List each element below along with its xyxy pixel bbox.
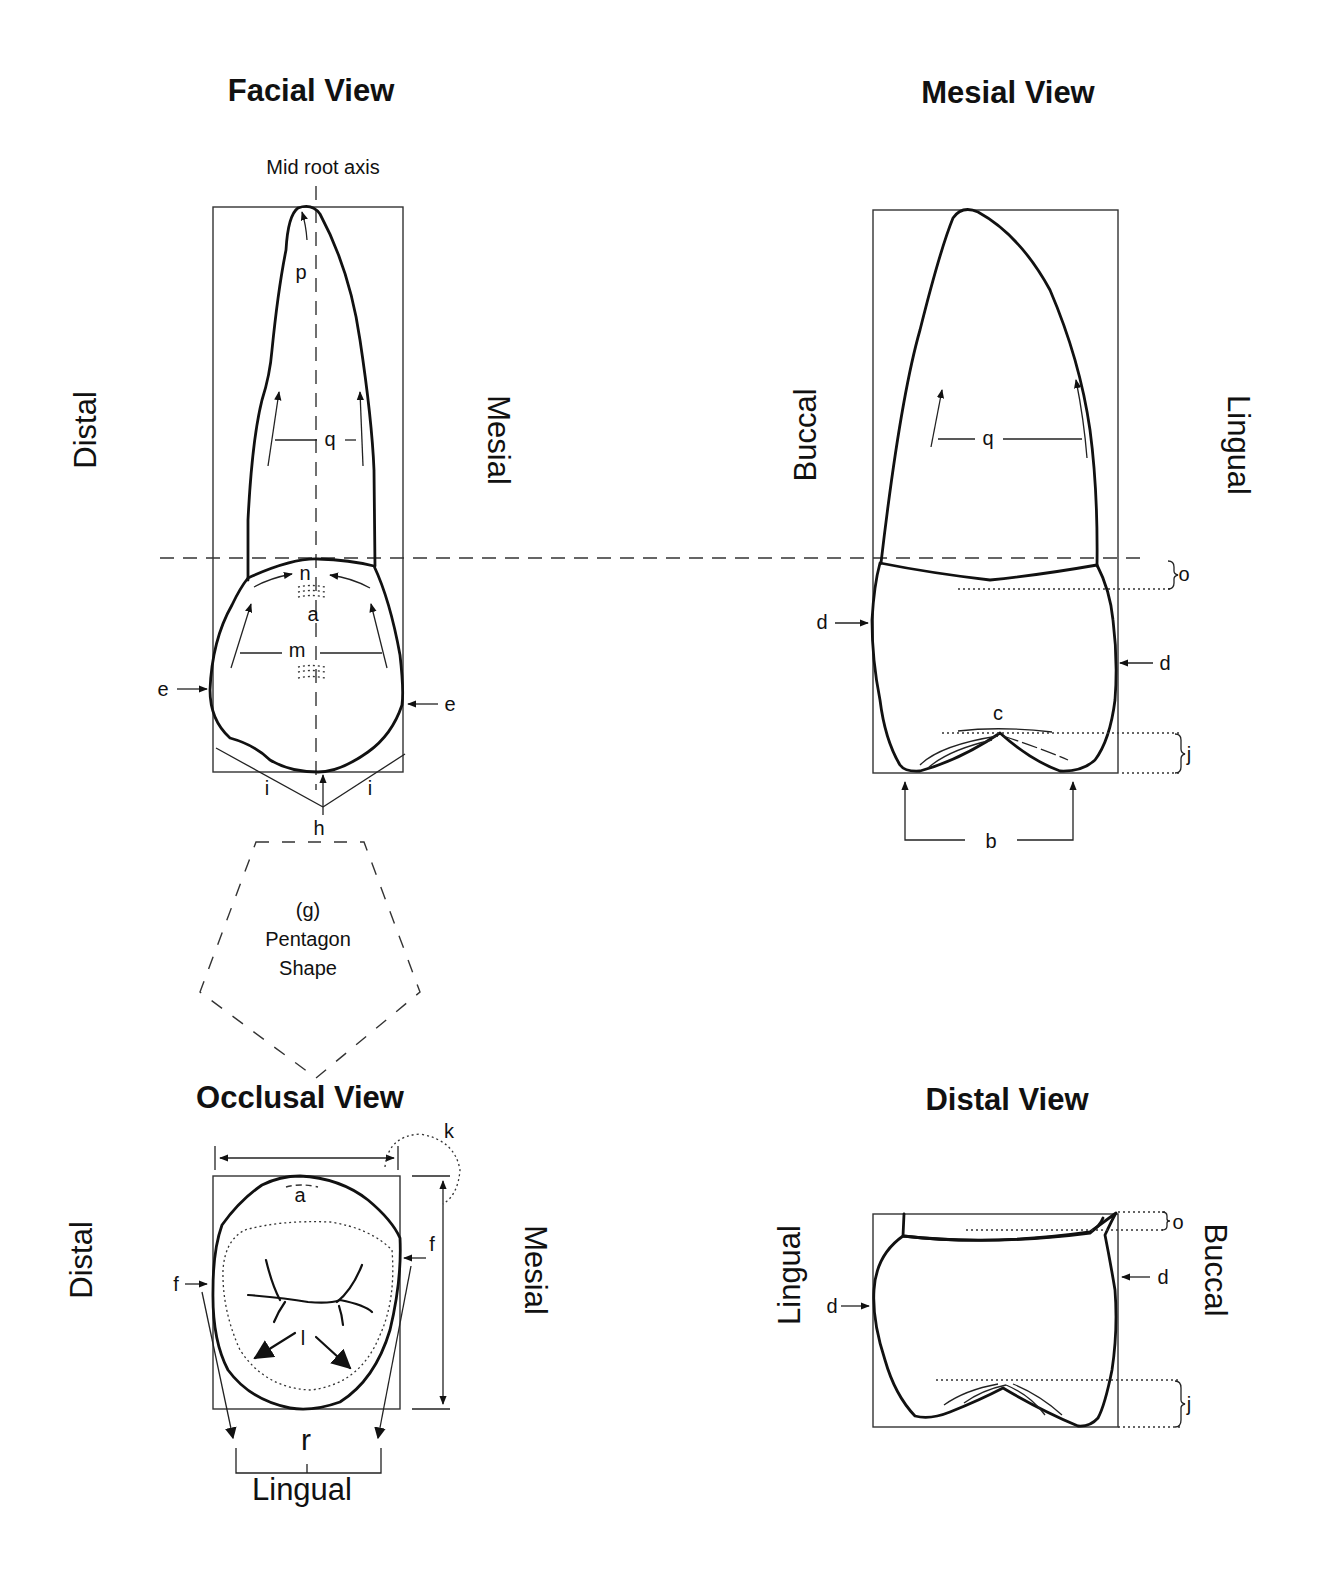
mesial-label-q: q: [982, 427, 993, 449]
mesial-c-arc: [958, 729, 1052, 732]
mesial-label-j: j: [1186, 743, 1191, 765]
occlusal-label-f-right: f: [429, 1233, 435, 1255]
label-m: m: [289, 639, 306, 661]
label-i-right: i: [368, 777, 372, 799]
i-right-line: [323, 754, 405, 807]
label-i-left: i: [265, 777, 269, 799]
occlusal-groove-2: [274, 1302, 285, 1322]
occlusal-outline: [213, 1176, 400, 1409]
occlusal-groove-3: [337, 1265, 362, 1302]
facial-distal-label: Distal: [68, 391, 103, 469]
mesial-q-right-arrow: [1076, 380, 1087, 458]
mesial-j-brace: [1175, 734, 1185, 773]
mesial-root-outline: [881, 210, 1097, 566]
distal-label-d-left: d: [826, 1295, 837, 1317]
mesial-crown-outline: [872, 563, 1116, 771]
occlusal-l-left-arrow: [255, 1333, 295, 1358]
q-left-arrow: [268, 392, 279, 466]
occlusal-view: Occlusal View Distal Mesial Lingual k a …: [64, 1080, 553, 1507]
occlusal-l-right-arrow: [316, 1337, 350, 1368]
distal-view: Distal View Lingual Buccal o d d j: [772, 1082, 1233, 1427]
mesial-view-title: Mesial View: [921, 75, 1095, 110]
facial-root-outline: [248, 206, 375, 580]
distal-ridge-left-2: [964, 1385, 1006, 1403]
mid-root-axis-label: Mid root axis: [266, 156, 379, 178]
occlusal-label-l: l: [301, 1327, 305, 1349]
n-left-arrow: [254, 574, 292, 587]
label-h: h: [313, 817, 324, 839]
distal-bounding-box: [873, 1214, 1118, 1427]
occlusal-groove-1: [266, 1260, 280, 1300]
i-left-line: [216, 748, 323, 807]
occlusal-distal-label: Distal: [64, 1221, 99, 1299]
mesial-label-o: o: [1178, 563, 1189, 585]
distal-crown-outline: [874, 1213, 1116, 1426]
occlusal-view-title: Occlusal View: [196, 1080, 405, 1115]
occlusal-mesial-label: Mesial: [518, 1225, 553, 1315]
tooth-morphology-diagram: Facial View Mid root axis Distal Mesial …: [0, 0, 1336, 1585]
label-p: p: [295, 261, 306, 283]
pentagon-label-shape: Shape: [279, 957, 337, 979]
mesial-bounding-box: [873, 210, 1118, 773]
distal-buccal-label: Buccal: [1198, 1223, 1233, 1316]
occlusal-label-r: r: [301, 1423, 311, 1456]
facial-view-title: Facial View: [228, 73, 395, 108]
k-dotted-circle: [385, 1134, 460, 1204]
occlusal-label-a: a: [294, 1184, 306, 1206]
mesial-view: Mesial View Buccal Lingual c q o d d: [788, 75, 1256, 852]
occlusal-lingual-label: Lingual: [252, 1472, 352, 1507]
occlusal-central-groove: [248, 1295, 372, 1312]
occlusal-label-f-left: f: [173, 1273, 179, 1295]
mesial-label-d-left: d: [816, 611, 827, 633]
n-imbrication-lines: [298, 586, 325, 598]
distal-label-j: j: [1186, 1393, 1191, 1415]
mesial-lingual-label: Lingual: [1221, 395, 1256, 495]
mesial-b-left-arrow: [905, 782, 965, 840]
facial-view: Facial View Mid root axis Distal Mesial …: [68, 73, 1140, 839]
distal-label-d-right: d: [1157, 1266, 1168, 1288]
pentagon-label-name: Pentagon: [265, 928, 351, 950]
distal-label-o: o: [1172, 1211, 1183, 1233]
distal-cervical-line: [903, 1218, 1103, 1240]
occlusal-bounding-box: [213, 1176, 400, 1409]
pentagon-shape: (g) Pentagon Shape: [200, 842, 420, 1078]
mesial-label-b: b: [985, 830, 996, 852]
mesial-o-brace: [1168, 561, 1178, 589]
q-right-arrow: [360, 392, 363, 466]
label-e-left: e: [157, 678, 168, 700]
facial-crown-outline: [210, 559, 403, 772]
label-c: c: [993, 702, 1003, 724]
mesial-ridge-right: [1003, 736, 1068, 760]
label-q: q: [324, 428, 335, 450]
label-e-right: e: [444, 693, 455, 715]
m-left-arrow: [231, 604, 251, 668]
occlusal-label-k: k: [444, 1120, 455, 1142]
label-a: a: [307, 603, 319, 625]
occlusal-groove-4: [339, 1306, 343, 1325]
p-arrow: [302, 212, 307, 240]
m-right-arrow: [371, 604, 387, 668]
mesial-label-d-right: d: [1159, 652, 1170, 674]
occlusal-r-left-arrow: [202, 1292, 233, 1438]
n-right-arrow: [330, 575, 370, 588]
distal-view-title: Distal View: [925, 1082, 1089, 1117]
pentagon-label-g: (g): [296, 899, 320, 921]
distal-j-brace: [1175, 1381, 1185, 1427]
distal-o-brace: [1162, 1212, 1170, 1230]
distal-lingual-label: Lingual: [772, 1225, 807, 1325]
label-n: n: [299, 562, 310, 584]
mesial-buccal-label: Buccal: [788, 388, 823, 481]
facial-mesial-label: Mesial: [481, 395, 516, 485]
m-imbrication-lines: [298, 666, 325, 679]
mesial-b-right-arrow: [1017, 782, 1073, 840]
occlusal-inner-dotted-outline: [223, 1222, 393, 1390]
